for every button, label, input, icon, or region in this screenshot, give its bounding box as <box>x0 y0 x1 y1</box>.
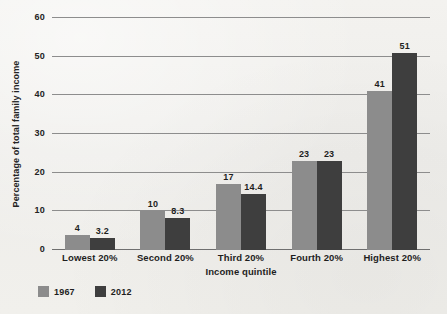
legend-item-1967: 1967 <box>38 286 75 297</box>
bar-rect <box>140 211 165 250</box>
bar-value-label: 8.3 <box>171 206 184 216</box>
y-tick-label-50: 50 <box>35 51 45 61</box>
bar-value-label: 4 <box>75 223 80 233</box>
y-tick-label-30: 30 <box>35 128 45 138</box>
y-axis-title-label: Percentage of total family income <box>11 61 21 208</box>
bar-1967-third-20-: 17 <box>216 184 241 250</box>
bar-group: 2323 <box>292 161 342 250</box>
bar-rect <box>216 184 241 250</box>
y-tick-label-0: 0 <box>40 244 45 254</box>
bar-value-label: 3.2 <box>96 226 109 236</box>
bar-rect <box>292 161 317 250</box>
legend-label: 2012 <box>111 287 132 297</box>
bar-1967-fourth-20-: 23 <box>292 161 317 250</box>
bar-chart-figure: Percentage of total family income 010203… <box>0 0 447 314</box>
bar-value-label: 17 <box>223 172 233 182</box>
bar-group: 108.3 <box>140 211 190 250</box>
bar-value-label: 10 <box>148 199 158 209</box>
bar-rect <box>65 235 90 250</box>
bars-layer: 43.2108.31714.423234151 <box>52 18 430 250</box>
bar-group: 43.2 <box>65 235 115 250</box>
bar-value-label: 23 <box>324 149 334 159</box>
x-tick-label-second-20-: Second 20% <box>137 252 194 263</box>
x-tick-label-lowest-20-: Lowest 20% <box>62 252 117 263</box>
y-axis-title: Percentage of total family income <box>9 18 23 250</box>
x-tick-label-highest-20-: Highest 20% <box>363 252 421 263</box>
y-tick-label-10: 10 <box>35 205 45 215</box>
bar-value-label: 41 <box>374 79 384 89</box>
bar-group: 1714.4 <box>216 184 266 250</box>
bar-value-label: 23 <box>299 149 309 159</box>
legend-swatch-icon <box>38 286 49 297</box>
bar-value-label: 51 <box>399 41 409 51</box>
y-tick-label-60: 60 <box>35 12 45 22</box>
chart-legend: 19672012 <box>38 286 132 297</box>
x-axis-title: Income quintile <box>52 266 430 277</box>
y-tick-label-40: 40 <box>35 89 45 99</box>
x-axis-tick-labels: Lowest 20%Second 20%Third 20%Fourth 20%H… <box>52 252 430 266</box>
bar-2012-fourth-20-: 23 <box>317 161 342 250</box>
legend-swatch-icon <box>95 286 106 297</box>
bar-rect <box>241 194 266 250</box>
legend-item-2012: 2012 <box>95 286 132 297</box>
bar-rect <box>392 53 417 250</box>
bar-rect <box>367 91 392 250</box>
bar-rect <box>317 161 342 250</box>
bar-2012-third-20-: 14.4 <box>241 194 266 250</box>
bar-group: 4151 <box>367 53 417 250</box>
bar-value-label: 14.4 <box>244 182 262 192</box>
bar-1967-second-20-: 10 <box>140 211 165 250</box>
plot-area: 0102030405060 43.2108.31714.423234151 <box>52 18 430 250</box>
bar-rect <box>90 238 115 250</box>
legend-label: 1967 <box>54 287 75 297</box>
bar-2012-lowest-20-: 3.2 <box>90 238 115 250</box>
x-tick-label-third-20-: Third 20% <box>218 252 264 263</box>
bar-2012-second-20-: 8.3 <box>165 218 190 250</box>
bar-1967-highest-20-: 41 <box>367 91 392 250</box>
x-tick-label-fourth-20-: Fourth 20% <box>290 252 343 263</box>
bar-1967-lowest-20-: 4 <box>65 235 90 250</box>
y-tick-label-20: 20 <box>35 167 45 177</box>
bar-2012-highest-20-: 51 <box>392 53 417 250</box>
bar-rect <box>165 218 190 250</box>
